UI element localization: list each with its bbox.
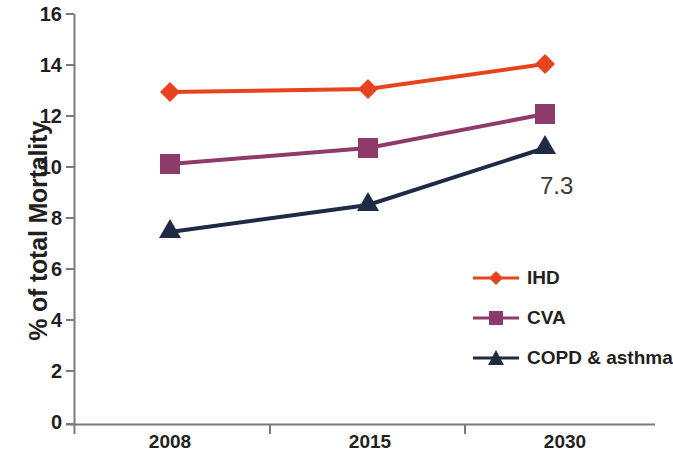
series-ihd-marker-2015 — [358, 79, 378, 99]
legend-label-cva: CVA — [527, 307, 566, 329]
series-cva-marker-2030 — [535, 104, 555, 124]
series-ihd-line — [170, 64, 545, 92]
series-copd-marker-2030 — [534, 135, 556, 154]
legend-label-ihd: IHD — [527, 267, 560, 289]
series-cva-marker-2008 — [160, 154, 180, 174]
legend-item-copd-asthma[interactable]: COPD & asthma — [473, 338, 663, 378]
chart-legend: IHD CVA COPD & asthma — [473, 258, 663, 378]
legend-label-copd-asthma: COPD & asthma — [527, 347, 673, 369]
y-axis-ticks — [66, 14, 74, 424]
series-ihd — [160, 54, 555, 102]
series-ihd-marker-2030 — [535, 54, 555, 74]
series-cva-marker-2015 — [358, 138, 378, 158]
series-ihd-marker-2008 — [160, 82, 180, 102]
triangle-marker-icon — [473, 348, 519, 368]
legend-item-ihd[interactable]: IHD — [473, 258, 663, 298]
series-copd-marker-2008 — [159, 219, 181, 238]
series-cva-line — [170, 114, 545, 164]
diamond-marker-icon — [473, 268, 519, 288]
legend-item-cva[interactable]: CVA — [473, 298, 663, 338]
square-marker-icon — [473, 308, 519, 328]
data-annotation-7-3: 7.3 — [540, 172, 573, 200]
